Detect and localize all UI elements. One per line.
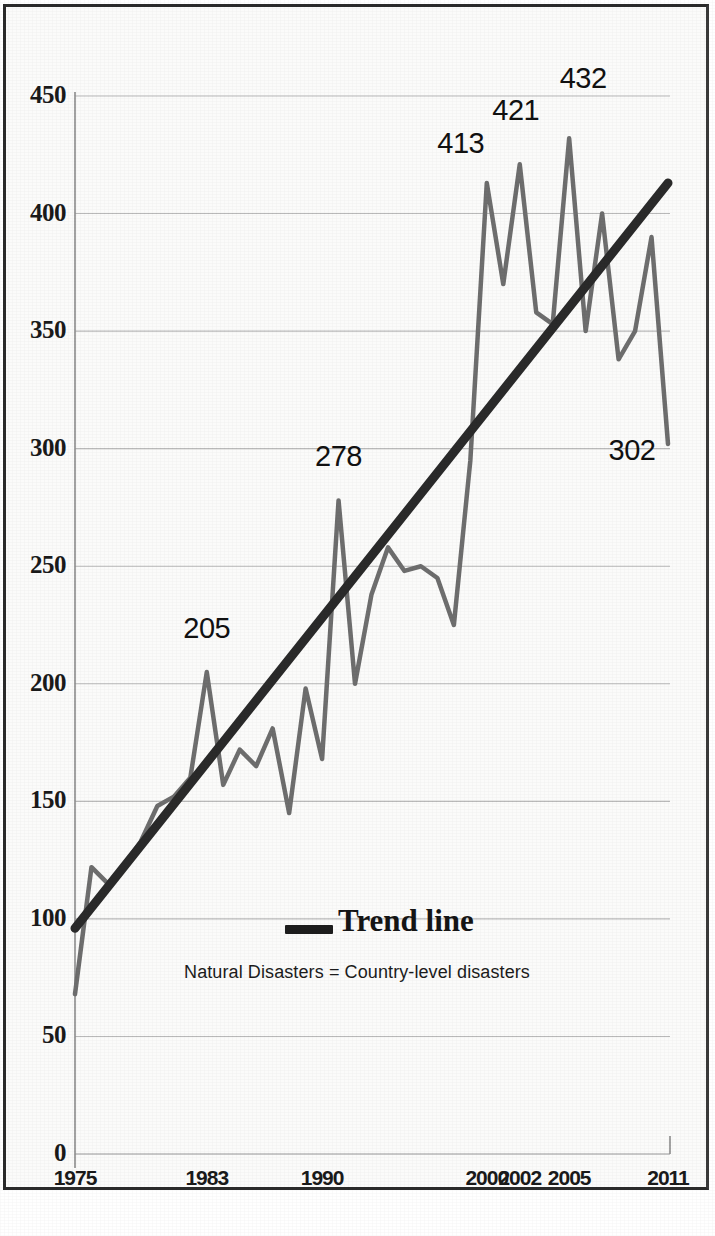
legend-trend-label: Trend line xyxy=(338,903,474,939)
y-axis-tick-450: 450 xyxy=(0,81,66,109)
y-axis-tick-400: 400 xyxy=(0,199,66,227)
data-label-413: 413 xyxy=(437,127,484,160)
trend-line-series xyxy=(75,183,668,928)
y-axis-tick-50: 50 xyxy=(0,1021,66,1049)
x-axis-tick-1990: 1990 xyxy=(301,1166,344,1190)
y-axis-tick-0: 0 xyxy=(0,1139,66,1167)
data-label-302: 302 xyxy=(609,434,656,467)
chart-caption: Natural Disasters = Country-level disast… xyxy=(184,962,530,983)
y-axis-tick-150: 150 xyxy=(0,786,66,814)
x-axis-tick-2005: 2005 xyxy=(548,1166,591,1190)
x-axis-tick-2002: 2002 xyxy=(498,1166,541,1190)
data-label-205: 205 xyxy=(183,612,230,645)
y-axis-tick-300: 300 xyxy=(0,434,66,462)
legend-trend-swatch xyxy=(285,925,333,934)
data-label-278: 278 xyxy=(315,440,362,473)
y-axis-tick-350: 350 xyxy=(0,316,66,344)
x-axis-tick-1983: 1983 xyxy=(185,1166,228,1190)
y-axis-tick-100: 100 xyxy=(0,904,66,932)
chart-page: 450400350300250200150100500 197519831990… xyxy=(0,0,715,1236)
data-label-421: 421 xyxy=(492,94,539,127)
y-axis-tick-250: 250 xyxy=(0,551,66,579)
y-axis-tick-200: 200 xyxy=(0,669,66,697)
line-chart xyxy=(0,0,715,1236)
data-label-432: 432 xyxy=(560,62,607,95)
x-axis-tick-2011: 2011 xyxy=(647,1166,689,1190)
x-axis-tick-1975: 1975 xyxy=(54,1166,97,1190)
